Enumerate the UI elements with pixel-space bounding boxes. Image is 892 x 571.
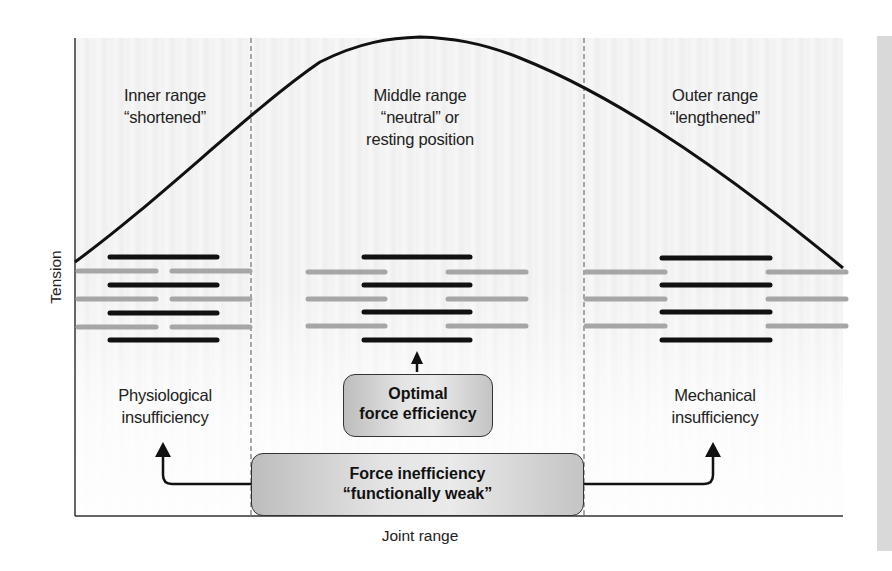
region-inner-title: Inner range	[95, 84, 235, 106]
sarcomere-inner	[78, 257, 250, 340]
inefficiency-box-line1: Force inefficiency	[252, 464, 583, 484]
outcome-inner-line2: insufficiency	[100, 406, 230, 428]
arrow-to-mechanical	[584, 442, 721, 484]
sarcomere-middle	[308, 257, 526, 340]
region-middle-subtitle: “neutral” or	[340, 106, 500, 128]
y-axis-label: Tension	[47, 247, 65, 307]
region-middle-subtitle2: resting position	[340, 128, 500, 150]
optimal-force-efficiency-box: Optimal force efficiency	[343, 374, 493, 437]
tension-curve	[75, 37, 843, 268]
optimal-box-line1: Optimal	[344, 384, 492, 404]
arrow-to-physiological	[155, 442, 252, 484]
region-middle-title: Middle range	[340, 84, 500, 106]
outcome-outer-line1: Mechanical	[650, 384, 780, 406]
region-outer-title: Outer range	[645, 84, 785, 106]
region-inner-label: Inner range “shortened”	[95, 84, 235, 128]
arrow-optimal	[411, 351, 423, 372]
outcome-outer-line2: insufficiency	[650, 406, 780, 428]
region-inner-subtitle: “shortened”	[95, 106, 235, 128]
outcome-inner-line1: Physiological	[100, 384, 230, 406]
region-outer-subtitle: “lengthened”	[645, 106, 785, 128]
x-axis-label: Joint range	[370, 527, 470, 545]
force-inefficiency-box: Force inefficiency “functionally weak”	[251, 453, 584, 516]
region-middle-label: Middle range “neutral” or resting positi…	[340, 84, 500, 150]
region-outer-label: Outer range “lengthened”	[645, 84, 785, 128]
optimal-box-line2: force efficiency	[344, 404, 492, 424]
mechanical-insufficiency-label: Mechanical insufficiency	[650, 384, 780, 428]
inefficiency-box-line2: “functionally weak”	[252, 484, 583, 504]
physiological-insufficiency-label: Physiological insufficiency	[100, 384, 230, 428]
sarcomere-outer	[586, 258, 846, 340]
